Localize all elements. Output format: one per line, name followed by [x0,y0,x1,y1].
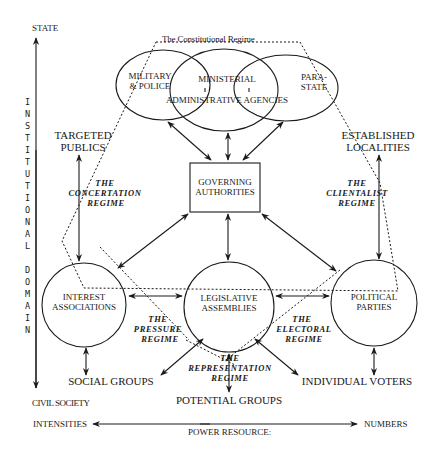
social-groups-label: SOCIAL GROUPS [68,375,153,387]
horizontal-axis: INTENSITIES NUMBERS POWER RESOURCE: [33,419,408,437]
established-label: ESTABLISHED [341,129,414,141]
political-label: POLITICAL [351,292,398,302]
regime-text: REGIME [337,198,376,208]
ministerial-label: MINISTERIAL [198,74,256,84]
axis-letter: U [25,169,30,179]
axis-letter: L [25,241,30,251]
regime-text: THE [292,314,311,324]
regime-text: CLIENTALIST [326,188,388,198]
regime-text: REGIME [140,334,179,344]
axis-letter: I [25,97,30,107]
axis-letter: I [25,145,30,155]
arrow-governing-interest [118,214,188,268]
regime-text: THE [95,178,114,188]
administrative-agencies-label: ADMINISTRATIVE AGENCIES [166,95,288,105]
electoral-regime-label: THE ELECTORAL REGIME [275,314,331,344]
constitutional-regime-title: The Constitutional Regime [162,34,255,44]
constitutional-regime-diagram: STATE CIVIL SOCIETY I N S T I T U T I O … [0,0,436,455]
regime-text: REGIME [210,373,249,383]
potential-groups-label: POTENTIAL GROUPS [176,394,282,406]
arrow-military-governing [168,122,211,160]
axis-letter: T [25,133,30,143]
regime-text: PRESSURE [134,324,182,334]
intensities-label: INTENSITIES [33,419,87,429]
arrow-parastate-governing [243,122,283,160]
publics-label: PUBLICS [60,141,105,153]
arrow-governing-parties [262,214,336,271]
axis-letter: T [25,157,30,167]
regime-text: THE [148,314,167,324]
police-label: & POLICE [130,81,171,91]
ministerial-ellipse [170,49,278,131]
axis-letter: I [25,193,30,203]
associations-label: ASSOCIATIONS [52,302,116,312]
axis-letter: D [25,265,30,275]
electoral-regime-divider [226,270,340,360]
military-label: MILITARY [129,71,172,81]
axis-letter: M [25,289,30,299]
assemblies-label: ASSEMBLIES [201,303,256,313]
axis-letter: O [25,205,30,215]
axis-letter: A [25,301,30,311]
regime-text: THE [347,178,366,188]
axis-letter: T [25,181,30,191]
pressure-regime-label: THE PRESSURE REGIME [134,314,182,344]
regime-text: THE [220,353,239,363]
axis-letter: I [25,313,30,323]
regime-text: ELECTORAL [275,324,331,334]
authorities-label: AUTHORITIES [195,187,255,197]
targeted-label: TARGETED [54,129,111,141]
power-resource-label: POWER RESOURCE: [188,427,271,437]
axis-letter: N [25,109,30,119]
representation-regime-label: THE REPRESENTATION REGIME [187,353,272,383]
civil-society-label: CIVIL SOCIETY [32,398,90,408]
axis-letter: N [25,325,30,335]
regime-text: CONCERTATION [69,188,142,198]
regime-text: REPRESENTATION [187,363,272,373]
parastate-label-2: STATE [301,82,328,92]
parastate-label-1: PARA- [301,72,327,82]
localities-label: LOCALITIES [346,141,410,153]
interest-label: INTEREST [63,292,106,302]
regime-text: REGIME [284,334,323,344]
regime-text: REGIME [86,198,125,208]
legislative-label: LEGISLATIVE [201,293,258,303]
numbers-label: NUMBERS [364,419,408,429]
axis-letter: N [25,217,30,227]
vertical-axis: STATE CIVIL SOCIETY I N S T I T U T I O … [25,23,90,408]
institutional-domain-label: I N S T I T U T I O N A L D O M A I N [25,97,30,335]
state-label: STATE [32,23,59,33]
governing-label: GOVERNING [198,177,252,187]
axis-letter: A [25,229,30,239]
parties-label: PARTIES [356,302,391,312]
individual-voters-label: INDIVIDUAL VOTERS [302,375,412,387]
axis-letter: S [25,121,30,131]
axis-letter: O [25,277,30,287]
